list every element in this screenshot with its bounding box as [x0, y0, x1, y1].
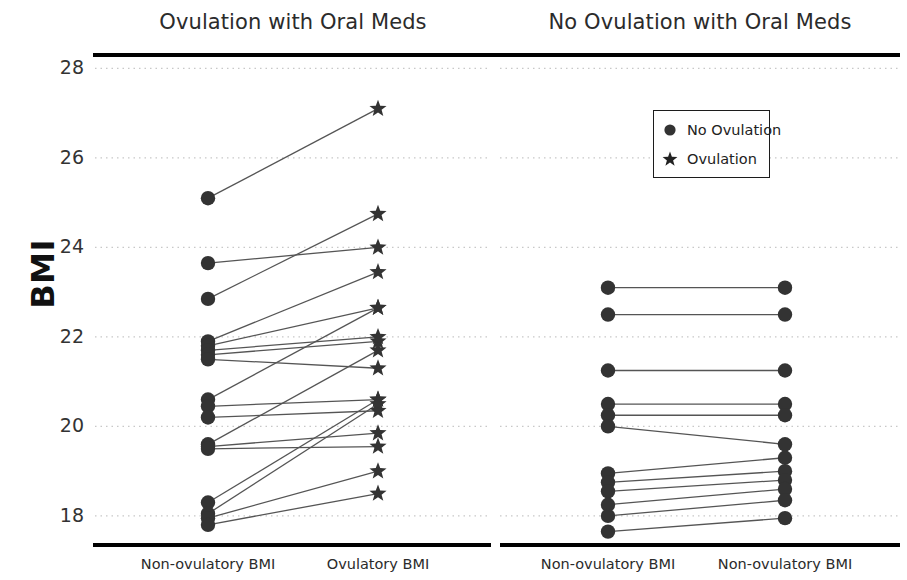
- data-point-end: [778, 493, 792, 507]
- data-point-end: [778, 307, 792, 321]
- data-point-end: [369, 341, 386, 357]
- connector-line: [608, 518, 785, 531]
- connector-line: [208, 214, 378, 299]
- connector-line: [208, 404, 378, 514]
- data-point-end: [778, 511, 792, 525]
- chart-figure: Ovulation with Oral Meds No Ovulation wi…: [0, 0, 907, 580]
- data-point-end: [369, 485, 386, 501]
- legend-entry-ovulation: Ovulation: [662, 147, 757, 171]
- data-point-start: [601, 419, 615, 433]
- connector-line: [208, 447, 378, 449]
- data-point-end: [369, 359, 386, 375]
- connector-line: [208, 400, 378, 407]
- connector-line: [208, 433, 378, 446]
- connector-line: [208, 308, 378, 346]
- connector-line: [608, 471, 785, 482]
- x-tick-p1-0: Non-ovulatory BMI: [508, 556, 708, 572]
- data-point-end: [369, 238, 386, 254]
- data-point-start: [201, 191, 215, 205]
- plot-area: [0, 0, 907, 580]
- data-point-start: [201, 256, 215, 270]
- data-point-end: [778, 408, 792, 422]
- connector-line: [208, 272, 378, 341]
- legend: No Ovulation Ovulation: [653, 110, 770, 178]
- star-marker-icon: [662, 151, 678, 167]
- connector-line: [208, 109, 378, 198]
- data-point-end: [778, 451, 792, 465]
- panel-0-series: [201, 100, 387, 532]
- legend-entry-no-ovulation: No Ovulation: [662, 118, 781, 142]
- data-point-end: [369, 263, 386, 279]
- legend-label-0: No Ovulation: [687, 122, 781, 138]
- data-point-end: [778, 363, 792, 377]
- data-point-start: [201, 518, 215, 532]
- data-point-end: [369, 299, 386, 315]
- data-point-start: [601, 280, 615, 294]
- data-point-start: [201, 410, 215, 424]
- data-point-start: [601, 363, 615, 377]
- connector-line: [608, 480, 785, 491]
- legend-label-1: Ovulation: [687, 151, 757, 167]
- connector-line: [208, 471, 378, 518]
- data-point-start: [201, 352, 215, 366]
- data-point-start: [601, 484, 615, 498]
- data-point-end: [778, 280, 792, 294]
- data-point-start: [601, 509, 615, 523]
- data-point-start: [201, 442, 215, 456]
- data-point-start: [601, 307, 615, 321]
- data-point-end: [369, 100, 386, 116]
- connector-line: [208, 494, 378, 525]
- data-point-end: [369, 462, 386, 478]
- connector-line: [208, 350, 378, 444]
- circle-marker-icon: [662, 123, 678, 137]
- data-point-end: [369, 438, 386, 454]
- x-tick-p0-1: Ovulatory BMI: [278, 556, 478, 572]
- data-point-end: [369, 205, 386, 221]
- connector-line: [608, 458, 785, 474]
- data-point-end: [778, 437, 792, 451]
- connector-line: [208, 247, 378, 263]
- connector-line: [608, 426, 785, 444]
- x-tick-p1-1: Non-ovulatory BMI: [685, 556, 885, 572]
- connector-line: [208, 308, 378, 400]
- panel-1-series: [601, 280, 792, 538]
- data-point-start: [601, 524, 615, 538]
- data-point-start: [201, 292, 215, 306]
- connector-line: [208, 400, 378, 503]
- connector-line: [208, 411, 378, 418]
